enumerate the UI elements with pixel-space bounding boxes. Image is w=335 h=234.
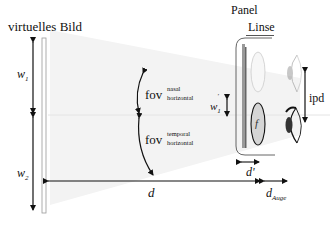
fov-nasal-label: fov <box>145 88 162 101</box>
w2-subscript: 2 <box>25 174 29 182</box>
fov-temporal-sup: temporal <box>167 131 190 138</box>
w1-prime-sub: 1 <box>217 107 221 115</box>
w1-prime-sup: ' <box>217 93 219 100</box>
fov-temporal-label: fov <box>145 133 162 146</box>
d-prime-label: d' <box>246 166 255 178</box>
virtual-image-label: virtuelles Bild <box>8 20 82 33</box>
fov-temporal-sub: horizontal <box>167 140 193 147</box>
d-eye-subscript: Auge <box>272 194 286 202</box>
w1-text: w <box>17 67 25 81</box>
panel-label: Panel <box>231 4 258 16</box>
w1-prime-label: w'1 <box>210 101 221 115</box>
lens-focal-label: f <box>255 118 258 129</box>
d-label: d <box>148 186 155 199</box>
fov-nasal-sub: horizontal <box>167 95 193 102</box>
lens-label-underline <box>246 35 274 36</box>
fov-nasal-sup: nasal <box>167 86 180 93</box>
lens-top <box>251 52 265 92</box>
w2-label: w2 <box>17 167 29 182</box>
w2-text: w <box>17 166 25 180</box>
w1-subscript: 1 <box>25 75 29 83</box>
virtual-image-plane <box>42 38 46 213</box>
d-eye-label: dAuge <box>266 187 286 202</box>
lens-label: Linse <box>248 21 275 33</box>
panel-display <box>242 44 245 148</box>
w1-label: w1 <box>17 68 29 83</box>
ipd-label: ipd <box>309 92 324 104</box>
